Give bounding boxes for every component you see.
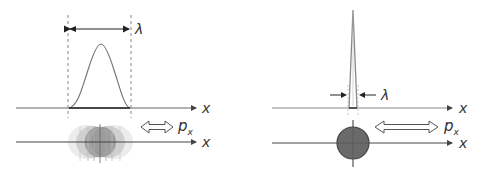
- wavelength-label: λ: [134, 21, 143, 37]
- narrow-wavelength-label: λ: [380, 87, 389, 103]
- localized-particle: [337, 120, 369, 167]
- right-momentum-label: px: [443, 117, 460, 137]
- right-top-axis-label: x: [458, 100, 468, 116]
- gaussian-curve: [69, 44, 130, 108]
- uncertainty-diagram: λ x x px: [0, 0, 481, 173]
- spread-particle-positions: [68, 124, 133, 163]
- bottom-axis-label: x: [201, 134, 211, 150]
- momentum-double-arrow-icon: [141, 121, 173, 133]
- top-axis-label: x: [201, 100, 211, 116]
- momentum-label: px: [177, 117, 194, 137]
- wide-momentum-double-arrow-icon: [375, 121, 438, 133]
- left-panel: λ x x px: [16, 15, 211, 163]
- right-bottom-axis-label: x: [458, 135, 468, 151]
- right-panel: λ x x px: [272, 10, 468, 167]
- wavelength-arrow-icon: [69, 26, 129, 32]
